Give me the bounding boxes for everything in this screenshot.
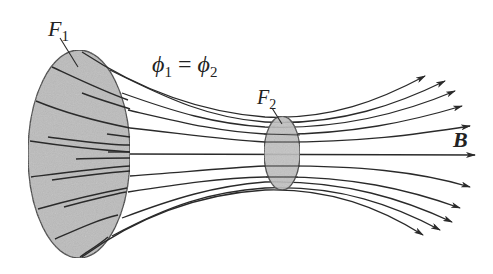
label-f1: F1 — [47, 16, 69, 44]
surface-f1 — [28, 50, 130, 258]
label-magnetic-field-b: B — [452, 127, 468, 152]
flux-equality-equation: ϕ1 = ϕ2 — [152, 51, 217, 80]
surface-f2 — [264, 116, 300, 190]
flux-tube-diagram: F1 F2 ϕ1 = ϕ2 B — [0, 0, 493, 274]
field-line-11 — [82, 190, 423, 257]
label-f2: F2 — [256, 86, 276, 112]
field-line-2 — [110, 70, 445, 122]
field-line-1 — [82, 52, 425, 117]
field-line-center — [130, 154, 475, 155]
field-line-10 — [112, 188, 440, 236]
